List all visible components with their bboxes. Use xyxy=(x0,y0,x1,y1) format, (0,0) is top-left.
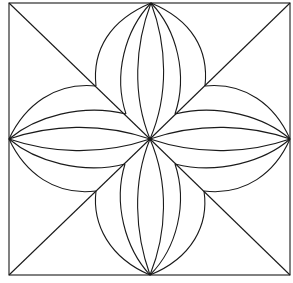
petal-left-mid-top xyxy=(9,110,126,139)
petal-left-inner-top xyxy=(9,127,150,139)
petal-right-inner-top xyxy=(150,127,290,139)
petal-left-inner-bottom xyxy=(9,139,150,151)
petal-bottom-inner-right xyxy=(150,139,164,275)
petal-left-mid-bottom xyxy=(9,139,125,168)
diagonal-line xyxy=(9,3,150,139)
petal-right-mid-bottom xyxy=(175,139,290,168)
petal-bottom-mid-left xyxy=(120,164,150,275)
petal-right-outer-bottom xyxy=(204,139,290,192)
petal-top-outer-left xyxy=(95,3,151,86)
petal-right-inner-bottom xyxy=(150,139,290,151)
petal-right-outer-top xyxy=(205,86,290,139)
petal-top-mid-left xyxy=(121,3,151,114)
petal-top-inner-left xyxy=(138,3,151,139)
petal-bottom-mid-right xyxy=(150,164,180,275)
petal-right-mid-top xyxy=(175,110,290,139)
pattern-lines xyxy=(9,3,290,275)
petal-left-outer-top xyxy=(9,86,96,139)
petal-bottom-outer-right xyxy=(150,191,205,275)
diagonal-line xyxy=(150,3,290,139)
petal-bottom-inner-left xyxy=(138,139,150,275)
petal-top-outer-right xyxy=(151,3,206,86)
petal-top-inner-right xyxy=(150,3,164,139)
diagonal-line xyxy=(150,139,290,275)
petal-left-outer-bottom xyxy=(9,139,96,192)
petal-top-mid-right xyxy=(151,3,180,114)
quilt-pattern-diagram xyxy=(0,0,293,283)
diagonal-line xyxy=(9,139,150,275)
petal-bottom-outer-left xyxy=(95,191,150,275)
